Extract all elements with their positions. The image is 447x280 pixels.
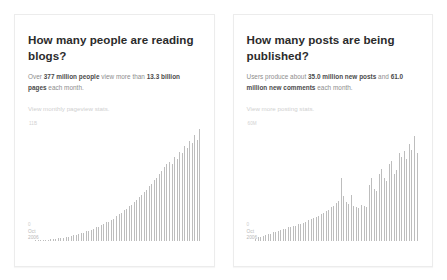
card-title: How many people are reading blogs? xyxy=(28,32,196,63)
stats-card-posts: How many posts are being published? User… xyxy=(233,14,434,267)
desc-text-1: Users produce about xyxy=(247,73,309,80)
card-description: Users produce about 35.0 million new pos… xyxy=(247,72,419,93)
chart-bar xyxy=(199,129,201,241)
card-description: Over 377 million people view more than 1… xyxy=(28,72,200,93)
dashboard-page: How many people are reading blogs? Over … xyxy=(0,0,447,280)
card-title: How many posts are being published? xyxy=(247,32,415,63)
chart-posts: 60M 0 Oct 2006 xyxy=(247,121,420,256)
bar-series-posts xyxy=(254,129,420,241)
x-axis-spacer xyxy=(28,241,201,256)
y-axis-top-label: 11B xyxy=(28,121,201,128)
desc-text-3: each month. xyxy=(315,84,352,91)
view-monthly-pageview-stats-link[interactable]: View monthly pageview stats. xyxy=(28,104,201,113)
x-axis-spacer xyxy=(247,241,420,256)
stats-card-blogs: How many people are reading blogs? Over … xyxy=(14,14,215,267)
chart-blogs: 11B 0 Oct 2006 xyxy=(28,121,201,256)
view-more-posting-stats-link[interactable]: View more posting stats. xyxy=(247,104,420,113)
y-axis-top-label: 60M xyxy=(247,121,420,128)
desc-text-2: view more than xyxy=(100,73,147,80)
chart-plot-area: 0 Oct 2006 xyxy=(247,129,420,241)
y-axis-zero-label: 0 xyxy=(247,222,250,227)
bar-series-pageviews xyxy=(35,129,201,241)
y-axis-zero-label: 0 xyxy=(28,222,31,227)
desc-text-2: and xyxy=(376,73,390,80)
chart-plot-area: 0 Oct 2006 xyxy=(28,129,201,241)
desc-highlight-1: 377 million people xyxy=(44,73,100,80)
chart-bar xyxy=(417,153,419,241)
desc-text-1: Over xyxy=(28,73,44,80)
desc-highlight-1: 35.0 million new posts xyxy=(308,73,376,80)
desc-text-3: each month. xyxy=(47,84,84,91)
